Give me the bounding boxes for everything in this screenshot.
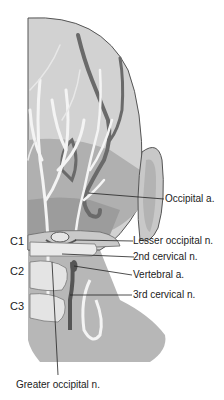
label-occipital-artery: Occipital a. <box>165 194 214 204</box>
label-second-cervical-nerve: 2nd cervical n. <box>133 252 197 262</box>
atlas-dens <box>51 232 69 242</box>
label-lesser-occipital-nerve: Lesser occipital n. <box>133 236 213 246</box>
vertebra-c2 <box>30 261 67 291</box>
level-c3: C3 <box>10 301 24 312</box>
vertebra-c3 <box>30 294 65 322</box>
label-vertebral-artery: Vertebral a. <box>133 270 184 280</box>
label-greater-occipital-nerve: Greater occipital n. <box>16 380 100 390</box>
label-third-cervical-nerve: 3rd cervical n. <box>133 290 195 300</box>
level-c1: C1 <box>10 236 24 247</box>
level-c2: C2 <box>10 266 24 277</box>
